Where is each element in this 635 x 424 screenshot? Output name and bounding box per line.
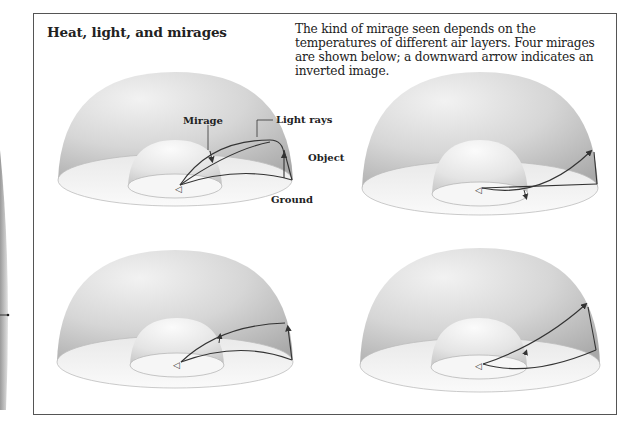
dome-panel-bottom-right: ◁: [360, 248, 600, 392]
eye-icon: ◁: [175, 184, 182, 194]
label-light-rays: Light rays: [276, 114, 332, 125]
eye-icon: ◁: [173, 360, 180, 370]
label-mirage: Mirage: [183, 115, 223, 126]
eye-icon: ◁: [475, 185, 482, 195]
eye-icon: ◁: [475, 361, 482, 371]
label-object: Object: [308, 152, 344, 163]
dome-panel-top-right: ◁: [362, 72, 598, 215]
dome-panel-bottom-left: ◁: [57, 250, 293, 388]
label-ground: Ground: [271, 194, 313, 205]
dome-panel-top-left: ◁: [58, 72, 293, 206]
mirage-illustration: ◁ ◁ ◁ ◁: [0, 0, 635, 424]
